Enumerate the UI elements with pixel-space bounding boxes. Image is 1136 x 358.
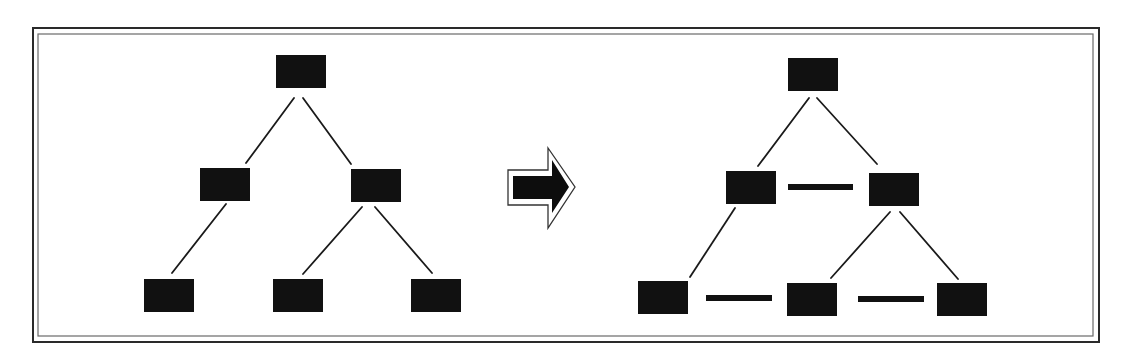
left-node-leaf-3 [411,279,461,312]
right-node-right-child [869,173,919,206]
left-edge-root-to-left-child [246,98,294,163]
right-edge-right-child-to-leaf-2 [831,212,890,278]
right-linked-tree [638,58,987,316]
right-edge-root-to-right-child [817,98,877,164]
right-node-leaf-2 [787,283,837,316]
left-edge-root-to-right-child [303,98,351,164]
right-edge-left-child-to-leaf-1 [690,208,735,277]
right-node-root [788,58,838,91]
right-edge-root-to-left-child [758,98,809,166]
right-arrow-icon [508,148,575,228]
right-edge-right-child-to-leaf-3 [900,212,958,279]
tree-transformation-diagram [0,0,1136,358]
left-node-leaf-1 [144,279,194,312]
right-node-leaf-1 [638,281,688,314]
left-binary-tree [144,55,461,312]
right-node-left-child [726,171,776,204]
right-sibling-link-leaf-1-to-leaf-2 [706,295,772,301]
left-node-right-child [351,169,401,202]
left-edge-right-child-to-leaf-3 [375,207,432,273]
right-node-leaf-3 [937,283,987,316]
right-sibling-link-left-child-to-right-child [788,184,853,190]
left-node-root [276,55,326,88]
left-node-left-child [200,168,250,201]
left-edge-right-child-to-leaf-2 [303,207,362,274]
left-node-leaf-2 [273,279,323,312]
right-sibling-link-leaf-2-to-leaf-3 [858,296,924,302]
left-edge-left-child-to-leaf-1 [172,204,226,273]
